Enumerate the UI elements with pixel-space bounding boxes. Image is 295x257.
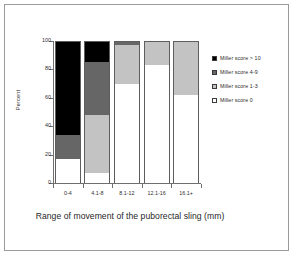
legend-label: Miller score 4-9 [220, 69, 258, 75]
x-axis-tick-label: 8.1-12 [112, 190, 142, 196]
legend-label: Miller score 0 [220, 97, 253, 103]
y-axis-tick-label: 20 [45, 151, 51, 157]
chart-axes: 020406080100 0-44.1-88.1-1212.1-1616.1+ [53, 41, 201, 184]
y-axis-title: Percent [15, 70, 21, 130]
bar-segment [144, 65, 170, 183]
bar-segment [55, 159, 81, 183]
bar-segment [173, 41, 199, 95]
legend-swatch [212, 84, 217, 89]
x-axis-tick [53, 184, 54, 188]
y-axis-tick-label: 80 [45, 65, 51, 71]
bar-segment [84, 41, 110, 62]
legend-label: Miller score > 10 [220, 55, 261, 61]
stacked-bar [55, 41, 81, 183]
x-axis-tick [171, 184, 172, 188]
y-axis-tick-label: 0 [48, 179, 51, 185]
chart-plot-area: Percent 020406080100 0-44.1-88.1-1212.1-… [5, 5, 290, 252]
stacked-bar [173, 41, 199, 183]
stacked-bar [114, 41, 140, 183]
y-axis-tick-label: 100 [42, 37, 51, 43]
x-axis-tick [112, 184, 113, 188]
legend-item: Miller score 0 [212, 93, 288, 107]
chart-caption: Range of movement of the puborectal slin… [15, 211, 245, 221]
stacked-bar [84, 41, 110, 183]
x-axis-tick-label: 16.1+ [171, 190, 201, 196]
bar-segment [114, 45, 140, 83]
legend-label: Miller score 1-3 [220, 83, 258, 89]
figure-frame: Percent 020406080100 0-44.1-88.1-1212.1-… [4, 4, 289, 251]
x-axis-tick-label: 12.1-16 [142, 190, 172, 196]
bar-segment [55, 41, 81, 135]
chart-legend: Miller score > 10Miller score 4-9Miller … [212, 51, 288, 107]
legend-item: Miller score 1-3 [212, 79, 288, 93]
x-axis-tick-label: 4.1-8 [83, 190, 113, 196]
bar-segment [84, 62, 110, 115]
x-axis-line [53, 183, 201, 184]
bar-segment [173, 95, 199, 183]
bar-segment [144, 41, 170, 65]
x-axis-tick [201, 184, 202, 188]
bar-segment [114, 84, 140, 183]
bar-segment [84, 173, 110, 183]
legend-item: Miller score 4-9 [212, 65, 288, 79]
legend-item: Miller score > 10 [212, 51, 288, 65]
y-axis-tick-label: 60 [45, 94, 51, 100]
y-axis-tick-label: 40 [45, 122, 51, 128]
bar-segment [114, 41, 140, 45]
stacked-bar [144, 41, 170, 183]
legend-swatch [212, 56, 217, 61]
legend-swatch [212, 70, 217, 75]
x-axis-tick [83, 184, 84, 188]
x-axis-tick-label: 0-4 [53, 190, 83, 196]
bar-segment [84, 115, 110, 173]
bar-segment [55, 135, 81, 159]
legend-swatch [212, 98, 217, 103]
x-axis-tick [142, 184, 143, 188]
